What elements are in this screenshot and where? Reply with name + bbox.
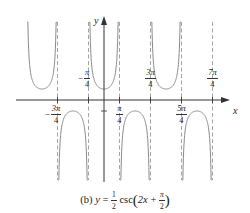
caption-half: 1 2 bbox=[111, 190, 117, 211]
x-tick-label: π4 bbox=[112, 104, 128, 124]
x-tick-label: 7π4 bbox=[205, 68, 221, 88]
x-tick-label: 5π4 bbox=[174, 104, 190, 124]
asymptotes bbox=[58, 22, 213, 180]
caption-equals: = bbox=[102, 194, 108, 205]
csc-branch-up bbox=[27, 22, 57, 89]
half-numerator: 1 bbox=[111, 190, 117, 201]
caption-y: y bbox=[95, 194, 100, 205]
pi-denominator: 2 bbox=[160, 201, 164, 211]
x-tick-label: −π4 bbox=[72, 68, 97, 88]
y-axis-label: y bbox=[94, 16, 98, 26]
caption-prefix: (b) bbox=[80, 194, 92, 205]
x-axis-arrow-icon bbox=[221, 97, 230, 103]
caption-func: csc bbox=[119, 194, 132, 205]
half-denominator: 2 bbox=[112, 201, 116, 211]
x-axis-label: x bbox=[233, 106, 237, 116]
x-tick-label: 3π4 bbox=[143, 68, 159, 88]
x-tick-label: −3π4 bbox=[41, 104, 66, 124]
caption-arg: 2x bbox=[138, 194, 148, 205]
chart-caption: (b) y = 1 2 csc(2x + π 2 ) bbox=[0, 190, 250, 211]
right-paren: ) bbox=[165, 192, 170, 208]
y-axis-arrow-icon bbox=[101, 16, 107, 25]
caption-plus: + bbox=[150, 194, 156, 205]
